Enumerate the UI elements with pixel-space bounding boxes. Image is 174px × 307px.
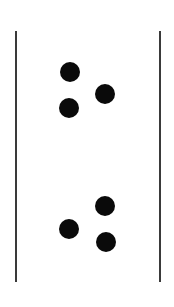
lower-dot-left (59, 219, 79, 239)
lower-dot-cluster (0, 0, 174, 307)
upper-dot-right (95, 84, 115, 104)
left-vertical-line (15, 31, 17, 282)
upper-dot-top-left (60, 62, 80, 82)
lower-dot-bottom-right (96, 232, 116, 252)
figure-canvas (0, 0, 174, 307)
lower-dot-top-right (95, 196, 115, 216)
upper-dot-cluster (0, 0, 174, 307)
upper-dot-bottom-left (59, 98, 79, 118)
right-vertical-line (159, 31, 161, 282)
